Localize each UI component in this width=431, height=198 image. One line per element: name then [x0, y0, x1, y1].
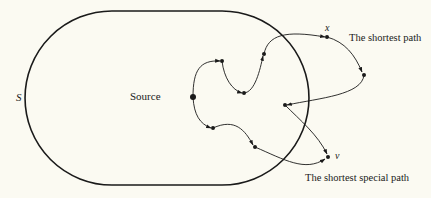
node-a: [220, 59, 224, 63]
node-e: [283, 103, 287, 107]
node-c: [262, 52, 266, 56]
node-source: [190, 94, 196, 100]
shortest-special-path: [193, 97, 325, 165]
shortest-path: [193, 34, 364, 154]
source-label: Source: [130, 91, 161, 102]
region-s-boundary: [25, 11, 309, 185]
nodes: [190, 35, 366, 159]
edge-d-e: [287, 75, 364, 105]
edge-source-a: [193, 61, 220, 97]
edge-b-c: [244, 56, 263, 93]
edge-source-f: [193, 97, 211, 128]
edge-e-v: [285, 105, 327, 154]
shortest-path-label: The shortest path: [349, 33, 421, 44]
node-x: [325, 35, 329, 39]
region-s-label: S: [16, 92, 22, 103]
node-b: [242, 91, 246, 95]
shortest-special-path-label: The shortest special path: [305, 173, 409, 184]
edge-f-g: [213, 124, 253, 145]
node-d: [362, 73, 366, 77]
v-label: v: [335, 151, 339, 161]
diagram-canvas: [0, 0, 431, 198]
x-label: x: [325, 23, 329, 33]
edge-g-v: [255, 147, 325, 165]
node-v: [326, 155, 330, 159]
node-g: [253, 145, 257, 149]
edge-a-b: [222, 61, 242, 93]
node-f: [211, 126, 215, 130]
